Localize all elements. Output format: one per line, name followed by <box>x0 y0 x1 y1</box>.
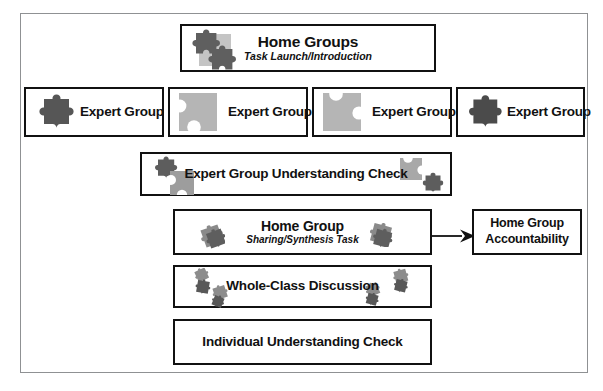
home-groups-title-wrap: Home Groups Task Launch/Introduction <box>244 34 372 62</box>
light-puzzle-square-top-blanks-icon <box>320 91 364 133</box>
small-puzzle-cluster-icon <box>199 223 225 249</box>
home-group-title: Home Group <box>261 219 344 234</box>
home-group-accountability-box[interactable]: Home Group Accountability <box>472 209 582 255</box>
indiv-check-title: Individual Understanding Check <box>202 335 402 349</box>
expert-group-label-2: Expert Group <box>228 105 312 119</box>
expert-group-box-4[interactable]: Expert Group <box>456 87 585 137</box>
home-groups-subtitle: Task Launch/Introduction <box>244 51 372 62</box>
home-groups-box[interactable]: Home Groups Task Launch/Introduction <box>180 24 436 72</box>
indiv-check-title-wrap: Individual Understanding Check <box>202 335 402 349</box>
expert-group-box-1[interactable]: Expert Group <box>24 87 164 137</box>
whole-class-title: Whole-Class Discussion <box>226 279 378 293</box>
expert-group-label-3: Expert Group <box>372 105 456 119</box>
expert-group-3-title-wrap: Expert Group <box>372 105 456 119</box>
whole-class-title-wrap: Whole-Class Discussion <box>226 279 378 293</box>
expert-group-4-title-wrap: Expert Group <box>507 105 591 119</box>
hg-accountability-line2: Accountability <box>485 232 568 248</box>
expert-group-1-title-wrap: Expert Group <box>80 105 164 119</box>
home-group-box[interactable]: Home Group Sharing/Synthesis Task <box>173 209 432 255</box>
home-group-title-wrap: Home Group Sharing/Synthesis Task <box>246 219 358 245</box>
expert-group-label-1: Expert Group <box>80 105 164 119</box>
light-puzzle-square-left-blanks-icon <box>176 91 220 133</box>
individual-understanding-check-box[interactable]: Individual Understanding Check <box>173 319 432 365</box>
small-puzzle-cluster-icon <box>368 221 394 247</box>
expert-group-label-4: Expert Group <box>507 105 591 119</box>
whole-class-discussion-box[interactable]: Whole-Class Discussion <box>173 265 432 308</box>
flow-arrow-right <box>432 229 476 243</box>
dark-puzzle-piece-icon <box>152 155 178 179</box>
expert-group-box-3[interactable]: Expert Group <box>312 87 452 137</box>
expert-group-understanding-check-box[interactable]: Expert Group Understanding Check <box>140 152 452 196</box>
two-puzzle-pieces-on-square-icon <box>190 28 242 72</box>
dark-puzzle-piece-icon <box>420 171 444 194</box>
egu-check-title: Expert Group Understanding Check <box>184 167 407 181</box>
hg-accountability-line1: Home Group <box>490 216 564 232</box>
expert-group-2-title-wrap: Expert Group <box>228 105 312 119</box>
dark-puzzle-piece-icon <box>460 91 504 133</box>
home-groups-title: Home Groups <box>258 34 358 50</box>
expert-group-box-2[interactable]: Expert Group <box>168 87 308 137</box>
home-group-subtitle: Sharing/Synthesis Task <box>246 235 358 246</box>
dark-puzzle-piece-icon <box>30 90 76 134</box>
hg-accountability-title-wrap: Home Group Accountability <box>485 216 568 247</box>
egu-check-title-wrap: Expert Group Understanding Check <box>184 167 407 181</box>
diagram-canvas: Home Groups Task Launch/Introduction Exp… <box>0 0 603 391</box>
